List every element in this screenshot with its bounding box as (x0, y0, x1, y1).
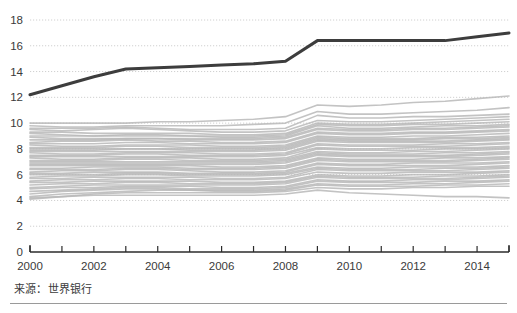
line-chart: 0246810121416182000200220042006200820102… (0, 0, 517, 313)
x-tick-label: 2014 (464, 260, 490, 272)
x-tick-labels: 20002002200420062008201020122014 (17, 260, 490, 272)
y-tick-label: 12 (10, 91, 23, 103)
x-tick-label: 2002 (81, 260, 107, 272)
y-tick-label: 0 (17, 246, 23, 258)
background-series-group (30, 96, 509, 199)
y-tick-label: 6 (17, 169, 23, 181)
y-tick-label: 18 (10, 14, 23, 26)
x-tick-label: 2008 (273, 260, 299, 272)
x-tick-label: 2004 (145, 260, 171, 272)
axis-group (30, 245, 509, 252)
y-tick-label: 10 (10, 117, 23, 129)
highlight-line (30, 33, 509, 95)
y-tick-label: 2 (17, 220, 23, 232)
y-tick-label: 16 (10, 40, 23, 52)
x-tick-label: 2012 (400, 260, 426, 272)
highlight-series-group (30, 33, 509, 95)
y-tick-labels: 024681012141618 (10, 14, 23, 258)
chart-figure: 0246810121416182000200220042006200820102… (0, 0, 517, 313)
y-tick-label: 8 (17, 143, 23, 155)
x-tick-label: 2000 (17, 260, 43, 272)
source-note: 来源：世界银行 (14, 280, 92, 296)
x-tick-label: 2006 (209, 260, 235, 272)
x-tick-label: 2010 (337, 260, 363, 272)
y-tick-label: 4 (17, 194, 24, 206)
bottom-divider (10, 303, 507, 304)
y-tick-label: 14 (10, 66, 23, 78)
